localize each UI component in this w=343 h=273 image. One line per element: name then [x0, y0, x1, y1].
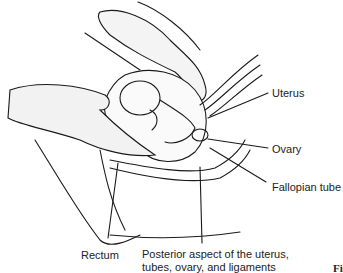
label-ovary: Ovary [272, 143, 301, 156]
label-fallopian-tube: Fallopian tube [272, 181, 341, 194]
label-posterior-aspect-line1: Posterior aspect of the uterus, [142, 248, 289, 261]
label-rectum: Rectum [81, 249, 119, 262]
anatomical-illustration [0, 0, 343, 273]
label-uterus: Uterus [272, 87, 304, 100]
figure-number-fragment: Fi [333, 262, 343, 273]
label-posterior-aspect-line2: tubes, ovary, and ligaments [142, 261, 276, 273]
